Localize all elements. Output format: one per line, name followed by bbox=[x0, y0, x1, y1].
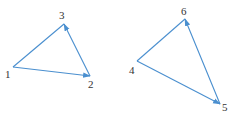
node-label-4: 4 bbox=[129, 64, 135, 76]
arrow-edge-2-3 bbox=[64, 24, 90, 76]
right-triangle: 456 bbox=[129, 5, 228, 113]
arrow-edge-4-5 bbox=[137, 61, 220, 104]
directed-graph-diagram: 123456 bbox=[0, 0, 234, 117]
arrow-edge-5-6 bbox=[185, 19, 220, 104]
edge-1-3 bbox=[13, 24, 64, 67]
arrow-edge-1-2 bbox=[13, 67, 90, 76]
node-label-6: 6 bbox=[181, 5, 187, 17]
node-label-5: 5 bbox=[222, 101, 228, 113]
node-label-3: 3 bbox=[59, 9, 65, 21]
node-label-1: 1 bbox=[5, 68, 11, 80]
node-label-2: 2 bbox=[88, 78, 94, 90]
left-triangle: 123 bbox=[5, 9, 94, 90]
edge-4-6 bbox=[137, 19, 185, 61]
